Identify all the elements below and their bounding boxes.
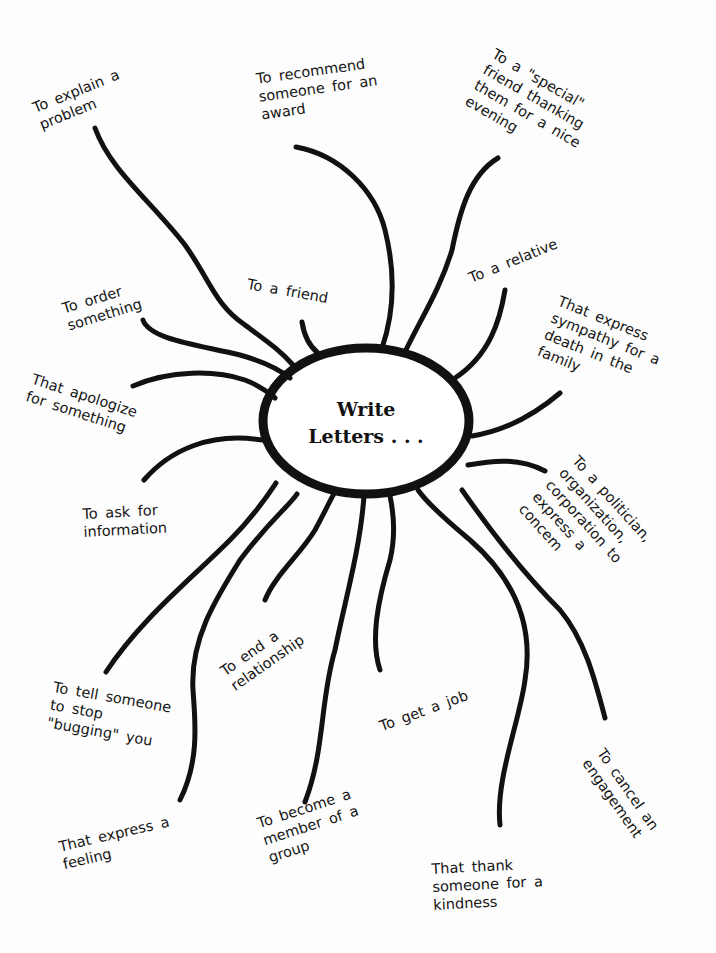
branch-sympathy	[472, 393, 560, 436]
branch-recommend-award	[296, 147, 392, 348]
center-topic-line1: Write	[296, 396, 436, 423]
branch-order-something	[143, 320, 290, 378]
label-ask-information: To ask for information	[82, 501, 167, 541]
branch-end-relationship	[265, 492, 335, 600]
branch-thank-kindness	[418, 490, 527, 825]
label-thank-kindness: That thank someone for a kindness	[431, 854, 544, 914]
branch-get-job	[375, 496, 393, 670]
branch-become-member	[305, 496, 364, 802]
branch-special-friend	[405, 158, 498, 352]
branch-apologize	[133, 373, 275, 398]
branch-politician	[468, 461, 545, 471]
branch-ask-information	[144, 438, 262, 480]
center-topic-line2: Letters . . .	[296, 423, 436, 450]
branch-explain-problem	[95, 128, 293, 365]
branch-relative	[455, 290, 505, 378]
branch-friend	[302, 322, 318, 353]
center-topic: Write Letters . . .	[296, 396, 436, 450]
mind-map-canvas: Write Letters . . . To explain a problem…	[0, 0, 716, 953]
